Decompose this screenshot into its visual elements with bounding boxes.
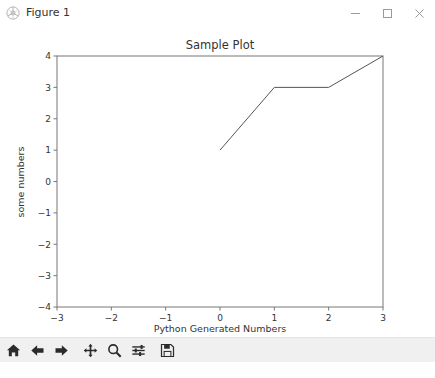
x-tick-label: −2 <box>105 313 118 323</box>
arrow-left-icon <box>30 343 45 358</box>
y-tick-label: −2 <box>38 240 51 250</box>
y-axis-label: some numbers <box>15 147 26 218</box>
figure-canvas[interactable]: −3−2−10123 −4−3−2−101234 Sample Plot Pyt… <box>0 27 435 337</box>
y-tick-label: 2 <box>45 114 51 124</box>
back-button[interactable] <box>25 339 49 361</box>
pan-button[interactable] <box>78 339 102 361</box>
minimize-button[interactable] <box>339 0 371 26</box>
x-axis-label: Python Generated Numbers <box>154 323 287 334</box>
axes-background <box>57 56 383 307</box>
title-bar-left: Figure 1 <box>0 6 70 20</box>
arrow-right-icon <box>54 343 69 358</box>
y-tick-label: 0 <box>45 177 51 187</box>
x-tick-label: −3 <box>50 313 63 323</box>
x-tick-label: 3 <box>380 313 386 323</box>
minimize-icon <box>350 8 361 19</box>
sliders-icon <box>131 343 146 358</box>
navigation-toolbar <box>0 337 435 362</box>
magnifier-icon <box>107 343 122 358</box>
chart-title: Sample Plot <box>186 38 255 52</box>
close-button[interactable] <box>403 0 435 26</box>
forward-button[interactable] <box>49 339 73 361</box>
y-tick-label: 3 <box>45 83 51 93</box>
subplots-button[interactable] <box>126 339 150 361</box>
plot-area[interactable]: −3−2−10123 −4−3−2−101234 Sample Plot Pyt… <box>0 27 435 337</box>
x-tick-label: −1 <box>159 313 172 323</box>
maximize-icon <box>382 8 393 19</box>
move-icon <box>83 343 98 358</box>
window-title: Figure 1 <box>26 6 70 20</box>
zoom-button[interactable] <box>102 339 126 361</box>
y-tick-label: −1 <box>38 208 51 218</box>
close-icon <box>414 8 425 19</box>
title-bar: Figure 1 <box>0 0 435 27</box>
y-tick-label: 1 <box>45 145 51 155</box>
maximize-button[interactable] <box>371 0 403 26</box>
x-tick-label: 0 <box>217 313 223 323</box>
save-button[interactable] <box>155 339 179 361</box>
y-tick-label: −3 <box>38 271 51 281</box>
x-tick-label: 1 <box>271 313 277 323</box>
y-tick-label: −4 <box>38 302 52 312</box>
window-controls <box>339 0 435 26</box>
status-bar <box>0 362 435 378</box>
x-tick-label: 2 <box>326 313 332 323</box>
y-tick-label: 4 <box>45 51 51 61</box>
floppy-disk-icon <box>160 343 175 358</box>
figure-window: Figure 1 <box>0 0 435 378</box>
home-icon <box>6 343 21 358</box>
matplotlib-icon <box>6 6 20 20</box>
home-button[interactable] <box>1 339 25 361</box>
